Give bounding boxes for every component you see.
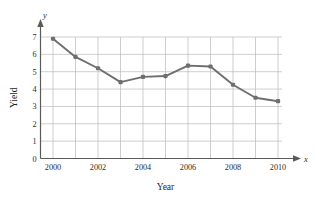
x-tick-label: 2010	[270, 163, 286, 172]
data-point-marker	[231, 83, 235, 87]
x-axis-arrow	[293, 155, 301, 161]
data-point-marker	[253, 96, 257, 100]
vertical-gridlines	[53, 37, 278, 159]
y-tick-label: 2	[32, 120, 36, 129]
data-point-marker	[141, 75, 145, 79]
y-tick-label: 4	[32, 85, 36, 94]
data-point-marker	[208, 64, 212, 68]
y-tick-label: 3	[32, 102, 36, 111]
x-axis-tick-labels: 200020022004200620082010	[45, 163, 286, 172]
x-tick-label: 2008	[225, 163, 241, 172]
x-axis-title: Year	[157, 182, 175, 192]
data-point-marker	[73, 55, 77, 59]
x-tick-label: 2006	[180, 163, 196, 172]
y-axis-tick-labels: 01234567	[32, 33, 36, 164]
y-axis-title: Yield	[9, 87, 19, 108]
horizontal-gridlines	[41, 37, 283, 141]
y-tick-label: 7	[32, 33, 36, 42]
data-point-marker	[51, 37, 55, 41]
x-tick-label: 2004	[135, 163, 151, 172]
data-point-marker	[118, 80, 122, 84]
data-point-marker	[96, 66, 100, 70]
x-tick-label: 2000	[45, 163, 61, 172]
axes	[37, 19, 301, 162]
y-tick-label: 1	[32, 137, 36, 146]
x-axis-symbol: x	[303, 154, 308, 164]
line-chart: 01234567 200020022004200620082010 y x Ye…	[0, 0, 316, 203]
data-point-marker	[276, 99, 280, 103]
chart-canvas: 01234567 200020022004200620082010 y x Ye…	[0, 0, 316, 203]
y-axis-symbol: y	[42, 10, 47, 20]
data-point-marker	[163, 74, 167, 78]
y-tick-label: 5	[32, 68, 36, 77]
x-tick-label: 2002	[90, 163, 106, 172]
y-tick-label: 0	[32, 155, 36, 164]
data-point-marker	[186, 64, 190, 68]
y-tick-label: 6	[32, 50, 36, 59]
y-axis-arrow	[37, 19, 43, 27]
